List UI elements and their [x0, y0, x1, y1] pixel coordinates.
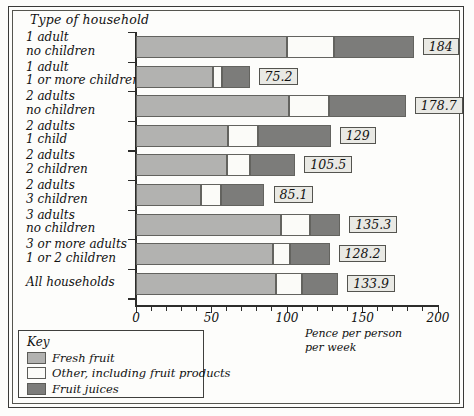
bar-value-label: 105.5 — [304, 156, 352, 173]
x-axis-caption-line2: per week — [305, 341, 435, 355]
y-tick — [128, 180, 135, 181]
x-tick-label: 200 — [427, 311, 450, 325]
bar-segment-other — [213, 66, 222, 88]
bar-row: 184 — [0, 36, 474, 58]
bar-row: 129 — [0, 125, 474, 147]
bar-segment-juices — [258, 125, 330, 147]
bar-segment-other — [276, 273, 302, 295]
bar-segment-fresh — [136, 273, 276, 295]
bar-value-label: 178.7 — [415, 97, 463, 114]
bar-segment-juices — [250, 154, 295, 176]
bar-segment-juices — [310, 214, 340, 236]
legend-item: Fruit juices — [27, 382, 119, 395]
y-tick — [128, 269, 135, 270]
bar-segment-juices — [334, 36, 414, 58]
legend-swatch-other — [27, 367, 46, 379]
x-tick-minor — [166, 306, 167, 311]
x-tick-label: 0 — [132, 311, 140, 325]
bar-row: 133.9 — [0, 273, 474, 295]
bar-segment-juices — [329, 95, 406, 117]
bar-segment-other — [287, 36, 334, 58]
bar-segment-fresh — [136, 154, 227, 176]
bar-value-label: 184 — [423, 38, 459, 55]
bar-row: 128.2 — [0, 243, 474, 265]
y-tick — [128, 298, 135, 299]
x-tick-minor — [422, 306, 423, 311]
bar-segment-other — [289, 95, 329, 117]
x-tick-label: 50 — [204, 311, 219, 325]
x-tick-minor — [407, 306, 408, 311]
legend: Key Fresh fruitOther, including fruit pr… — [18, 330, 204, 398]
x-tick-minor — [196, 306, 197, 311]
bar-row: 75.2 — [0, 66, 474, 88]
bar-value-label: 75.2 — [259, 68, 299, 85]
bar-segment-fresh — [136, 66, 213, 88]
bar-segment-juices — [290, 243, 329, 265]
x-tick-minor — [256, 306, 257, 311]
bar-segment-fresh — [136, 36, 287, 58]
page-title: Type of household — [30, 12, 149, 27]
legend-swatch-juices — [27, 383, 46, 395]
legend-item: Fresh fruit — [27, 351, 115, 364]
bar-value-label: 133.9 — [347, 275, 395, 292]
x-tick-minor — [317, 306, 318, 311]
bar-segment-other — [227, 154, 250, 176]
x-axis-caption: Pence per person per week — [305, 327, 435, 355]
legend-label: Fruit juices — [52, 382, 119, 396]
bar-segment-fresh — [136, 243, 273, 265]
legend-label: Fresh fruit — [52, 351, 115, 365]
bar-value-label: 85.1 — [274, 186, 314, 203]
x-tick-minor — [241, 306, 242, 311]
x-tick-minor — [181, 306, 182, 311]
bar-segment-other — [228, 125, 258, 147]
y-tick — [128, 150, 135, 151]
x-tick-label: 100 — [276, 311, 299, 325]
bar-segment-fresh — [136, 95, 289, 117]
bar-segment-juices — [221, 184, 265, 206]
bar-segment-fresh — [136, 125, 228, 147]
bar-segment-fresh — [136, 184, 201, 206]
x-tick-minor — [347, 306, 348, 311]
legend-swatch-fresh — [27, 352, 46, 364]
bar-row: 105.5 — [0, 154, 474, 176]
chart-page: Type of household 050100150200 Pence per… — [0, 0, 474, 416]
legend-label: Other, including fruit products — [52, 366, 231, 380]
bar-segment-fresh — [136, 214, 281, 236]
y-tick — [128, 210, 135, 211]
legend-item: Other, including fruit products — [27, 367, 231, 380]
bar-segment-other — [281, 214, 310, 236]
x-tick-minor — [377, 306, 378, 311]
y-tick — [128, 91, 135, 92]
bar-value-label: 128.2 — [339, 245, 387, 262]
bar-value-label: 129 — [340, 127, 376, 144]
bar-row: 135.3 — [0, 214, 474, 236]
x-tick-minor — [226, 306, 227, 311]
x-tick-minor — [392, 306, 393, 311]
bar-segment-juices — [302, 273, 338, 295]
y-tick — [128, 32, 135, 33]
bar-segment-other — [201, 184, 221, 206]
bar-segment-other — [273, 243, 290, 265]
x-tick-minor — [151, 306, 152, 311]
x-axis-caption-line1: Pence per person — [305, 327, 435, 341]
legend-title: Key — [27, 335, 50, 349]
y-tick — [128, 121, 135, 122]
bar-row: 178.7 — [0, 95, 474, 117]
x-tick-minor — [271, 306, 272, 311]
x-tick-label: 150 — [351, 311, 374, 325]
x-tick-minor — [302, 306, 303, 311]
bar-segment-juices — [222, 66, 249, 88]
bar-row: 85.1 — [0, 184, 474, 206]
bar-value-label: 135.3 — [349, 216, 397, 233]
x-tick-minor — [332, 306, 333, 311]
y-tick — [128, 239, 135, 240]
